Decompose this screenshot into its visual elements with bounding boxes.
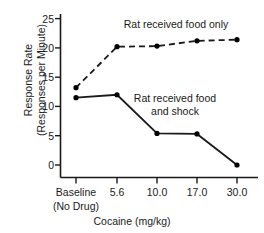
x-tick-label-17-0: 17.0 — [187, 186, 207, 198]
x-tick-label-baseline: Baseline — [56, 186, 96, 198]
x-tick-label-5-6: 5.6 — [110, 186, 125, 198]
annotation-food-and-shock-line1: Rat received food — [134, 92, 216, 105]
plot-area — [0, 0, 264, 233]
annotation-food-and-shock: Rat received food and shock — [134, 92, 216, 117]
y-tick-marks — [55, 19, 61, 165]
chart-container: Response Rate (Responses per Minute) 0 5… — [0, 0, 264, 233]
x-axis-title: Cocaine (mg/kg) — [0, 215, 264, 227]
annotation-food-and-shock-line2: and shock — [134, 105, 216, 118]
x-tick-label-10-0: 10.0 — [147, 186, 167, 198]
annotation-food-only: Rat received food only — [124, 18, 228, 31]
x-tick-marks — [76, 178, 237, 184]
x-tick-sublabel-baseline: (No Drug) — [53, 200, 99, 212]
x-tick-label-30-0: 30.0 — [227, 186, 247, 198]
series-markers-food-only — [73, 37, 239, 90]
